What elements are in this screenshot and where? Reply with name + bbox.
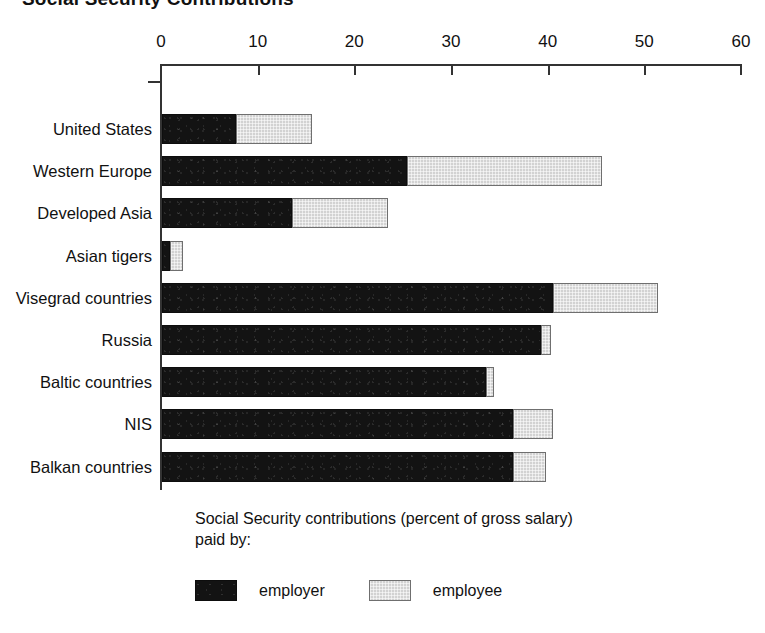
legend-label-employee: employee	[433, 582, 502, 600]
stacked-bar	[162, 452, 546, 482]
bar-row: Western Europe	[0, 156, 765, 186]
x-tick-mark-40	[548, 64, 550, 75]
bar-segment-employer	[162, 452, 513, 482]
x-tick-label-0: 0	[156, 32, 165, 52]
legend: employeremployee	[195, 580, 502, 601]
legend-caption: Social Security contributions (percent o…	[195, 508, 573, 550]
bar-segment-employer	[162, 114, 236, 144]
stacked-bar	[162, 198, 388, 228]
bar-row: Baltic countries	[0, 367, 765, 397]
category-label-5: Russia	[6, 325, 152, 355]
bar-segment-employer	[162, 283, 553, 313]
bar-segment-employee	[513, 452, 546, 482]
bar-segment-employer	[162, 409, 513, 439]
bar-row: Asian tigers	[0, 241, 765, 271]
bar-segment-employer	[162, 325, 541, 355]
stacked-bar	[162, 114, 312, 144]
legend-swatch-employee	[369, 580, 411, 601]
bar-row: Balkan countries	[0, 452, 765, 482]
bar-segment-employer	[162, 241, 170, 271]
category-label-1: Western Europe	[6, 156, 152, 186]
category-label-3: Asian tigers	[6, 241, 152, 271]
legend-label-employer: employer	[259, 582, 325, 600]
x-tick-label-30: 30	[442, 32, 461, 52]
x-tick-mark-30	[451, 64, 453, 75]
legend-item-employee: employee	[369, 580, 502, 601]
bar-segment-employee	[170, 241, 184, 271]
category-label-7: NIS	[6, 409, 152, 439]
bar-segment-employer	[162, 367, 486, 397]
y-axis-origin-tick	[148, 81, 162, 83]
bar-segment-employee	[236, 114, 311, 144]
bar-segment-employee	[553, 283, 658, 313]
category-label-0: United States	[6, 114, 152, 144]
bar-segment-employee	[513, 409, 553, 439]
bar-segment-employee	[486, 367, 494, 397]
x-tick-label-40: 40	[538, 32, 557, 52]
stacked-bar	[162, 241, 183, 271]
bar-segment-employee	[541, 325, 551, 355]
bar-segment-employer	[162, 198, 292, 228]
legend-swatch-employer	[195, 580, 237, 601]
bar-row: Visegrad countries	[0, 283, 765, 313]
category-label-2: Developed Asia	[6, 198, 152, 228]
bar-segment-employer	[162, 156, 407, 186]
stacked-bar	[162, 325, 551, 355]
x-tick-label-20: 20	[345, 32, 364, 52]
stacked-bar	[162, 283, 658, 313]
x-tick-mark-50	[644, 64, 646, 75]
x-tick-mark-20	[354, 64, 356, 75]
bar-segment-employee	[407, 156, 602, 186]
stacked-bar	[162, 409, 553, 439]
x-tick-label-60: 60	[732, 32, 751, 52]
bar-segment-employee	[292, 198, 389, 228]
bar-row: Developed Asia	[0, 198, 765, 228]
x-axis-right-cap	[740, 64, 742, 75]
category-label-6: Baltic countries	[6, 367, 152, 397]
category-label-4: Visegrad countries	[6, 283, 152, 313]
bar-row: NIS	[0, 409, 765, 439]
x-tick-label-10: 10	[248, 32, 267, 52]
chart-page: Social Security Contributions 0102030405…	[0, 0, 765, 633]
x-tick-mark-10	[258, 64, 260, 75]
category-label-8: Balkan countries	[6, 452, 152, 482]
legend-item-employer: employer	[195, 580, 325, 601]
bar-row: United States	[0, 114, 765, 144]
bar-row: Russia	[0, 325, 765, 355]
x-tick-label-50: 50	[635, 32, 654, 52]
stacked-bar	[162, 156, 602, 186]
stacked-bar	[162, 367, 494, 397]
